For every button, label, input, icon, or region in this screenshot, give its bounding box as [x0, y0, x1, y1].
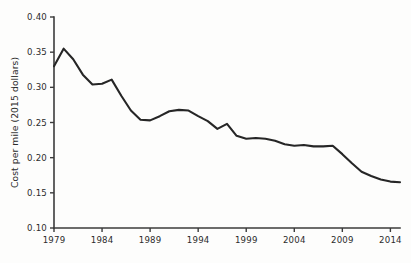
x-tick-label: 2009 [331, 235, 354, 245]
line-chart: 0.100.150.200.250.300.350.40 19791984198… [0, 0, 411, 263]
cost-per-mile-series-line [54, 49, 400, 183]
y-tick-label: 0.15 [27, 188, 47, 198]
x-tick-label: 1989 [139, 235, 162, 245]
x-axis-tick-labels: 19791984198919941999200420092014 [43, 235, 402, 245]
x-tick-label: 1994 [187, 235, 210, 245]
y-axis-tick-labels: 0.100.150.200.250.300.350.40 [27, 12, 47, 233]
y-tick-label: 0.20 [27, 153, 47, 163]
x-tick-label: 2014 [379, 235, 402, 245]
y-tick-label: 0.40 [27, 12, 47, 22]
y-tick-label: 0.25 [27, 118, 47, 128]
y-tick-label: 0.35 [27, 47, 47, 57]
y-tick-label: 0.10 [27, 223, 47, 233]
y-axis-title: Cost per mile (2015 dollars) [9, 57, 20, 188]
x-tick-label: 1984 [91, 235, 114, 245]
chart-figure: 0.100.150.200.250.300.350.40 19791984198… [0, 0, 411, 263]
x-tick-label: 1979 [43, 235, 66, 245]
y-tick-label: 0.30 [27, 82, 47, 92]
x-tick-label: 2004 [283, 235, 306, 245]
x-tick-label: 1999 [235, 235, 258, 245]
